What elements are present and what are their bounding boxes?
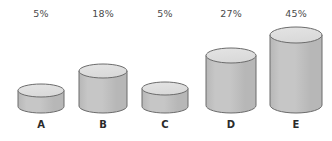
cylinder-bar-b	[77, 62, 129, 115]
cylinder-top-ellipse	[206, 48, 256, 63]
cylinder-bar-c	[140, 80, 190, 115]
cylinder-bar-e	[268, 25, 324, 115]
value-label-e: 45%	[266, 8, 326, 19]
category-label-e: E	[266, 119, 326, 130]
value-label-c: 5%	[135, 8, 195, 19]
cylinder-top-ellipse	[270, 27, 322, 43]
cylinder-top-ellipse	[142, 82, 188, 95]
cylinder-body	[206, 56, 256, 113]
cylinder-bar-d	[204, 46, 258, 115]
cylinder-bar-a	[16, 82, 66, 115]
category-label-a: A	[11, 119, 71, 130]
category-label-d: D	[201, 119, 261, 130]
cylinder-bar-chart: 5%18%5%27%45% ABCDE	[0, 0, 332, 141]
cylinder-top-ellipse	[79, 64, 127, 78]
value-label-d: 27%	[201, 8, 261, 19]
category-label-b: B	[73, 119, 133, 130]
cylinder-top-ellipse	[18, 84, 64, 97]
cylinder-body	[270, 35, 322, 113]
value-label-a: 5%	[11, 8, 71, 19]
category-label-c: C	[135, 119, 195, 130]
value-label-b: 18%	[73, 8, 133, 19]
